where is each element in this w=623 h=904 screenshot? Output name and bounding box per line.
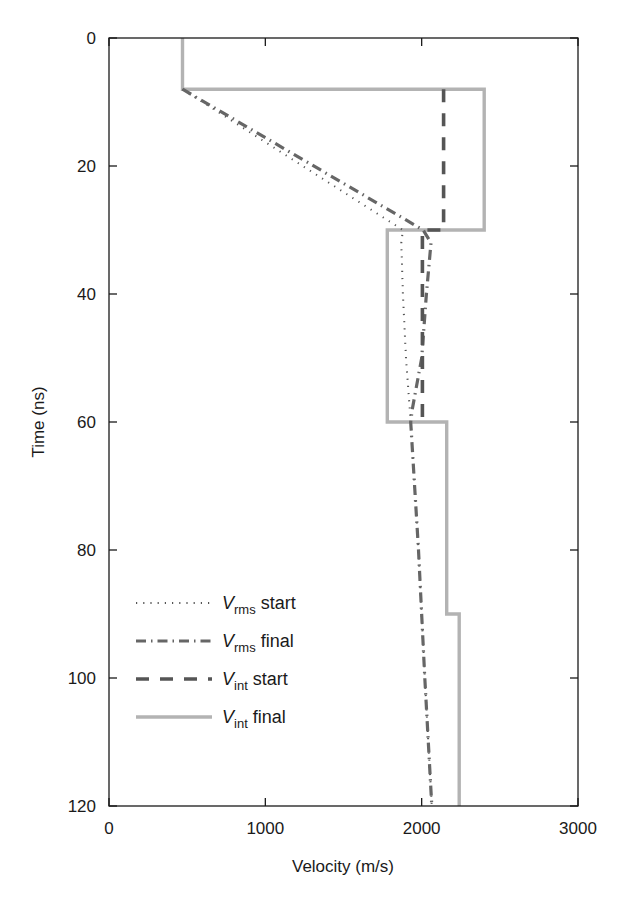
y-axis-ticks: 020406080100120 <box>68 29 578 816</box>
legend-label: Vrms final <box>222 631 294 655</box>
series-line-solid <box>183 38 485 806</box>
plot-series <box>183 38 485 806</box>
legend-item: Vrms final <box>136 631 294 655</box>
velocity-time-chart: 0100020003000 020406080100120 Velocity (… <box>0 0 623 904</box>
x-tick-label: 3000 <box>559 819 597 838</box>
y-tick-label: 60 <box>77 413 96 432</box>
x-tick-label: 1000 <box>246 819 284 838</box>
legend-label: Vint final <box>222 707 286 731</box>
legend: Vrms startVrms finalVint startVint final <box>136 593 296 731</box>
x-tick-label: 2000 <box>403 819 441 838</box>
legend-item: Vint start <box>136 669 288 693</box>
y-tick-label: 120 <box>68 797 96 816</box>
y-tick-label: 0 <box>87 29 96 48</box>
y-tick-label: 100 <box>68 669 96 688</box>
plot-frame <box>109 38 578 806</box>
legend-label: Vrms start <box>222 593 296 617</box>
legend-label: Vint start <box>222 669 288 693</box>
x-axis-title: Velocity (m/s) <box>292 857 394 876</box>
series-line-dashed <box>422 89 443 422</box>
y-tick-label: 40 <box>77 285 96 304</box>
y-tick-label: 80 <box>77 541 96 560</box>
y-axis-title: Time (ns) <box>29 386 48 457</box>
legend-item: Vint final <box>136 707 286 731</box>
series-line-dashdot <box>183 89 432 806</box>
y-tick-label: 20 <box>77 157 96 176</box>
series-line-dotted <box>183 89 432 806</box>
legend-item: Vrms start <box>136 593 296 617</box>
x-tick-label: 0 <box>104 819 113 838</box>
